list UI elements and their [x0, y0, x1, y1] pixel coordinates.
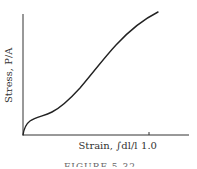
x-axis-label: Strain, ∫dl/l [79, 140, 138, 151]
x-tick-label-1: 1.0 [141, 140, 157, 151]
y-axis-label-text: Stress, P/A [3, 47, 14, 103]
data-line [23, 12, 158, 135]
